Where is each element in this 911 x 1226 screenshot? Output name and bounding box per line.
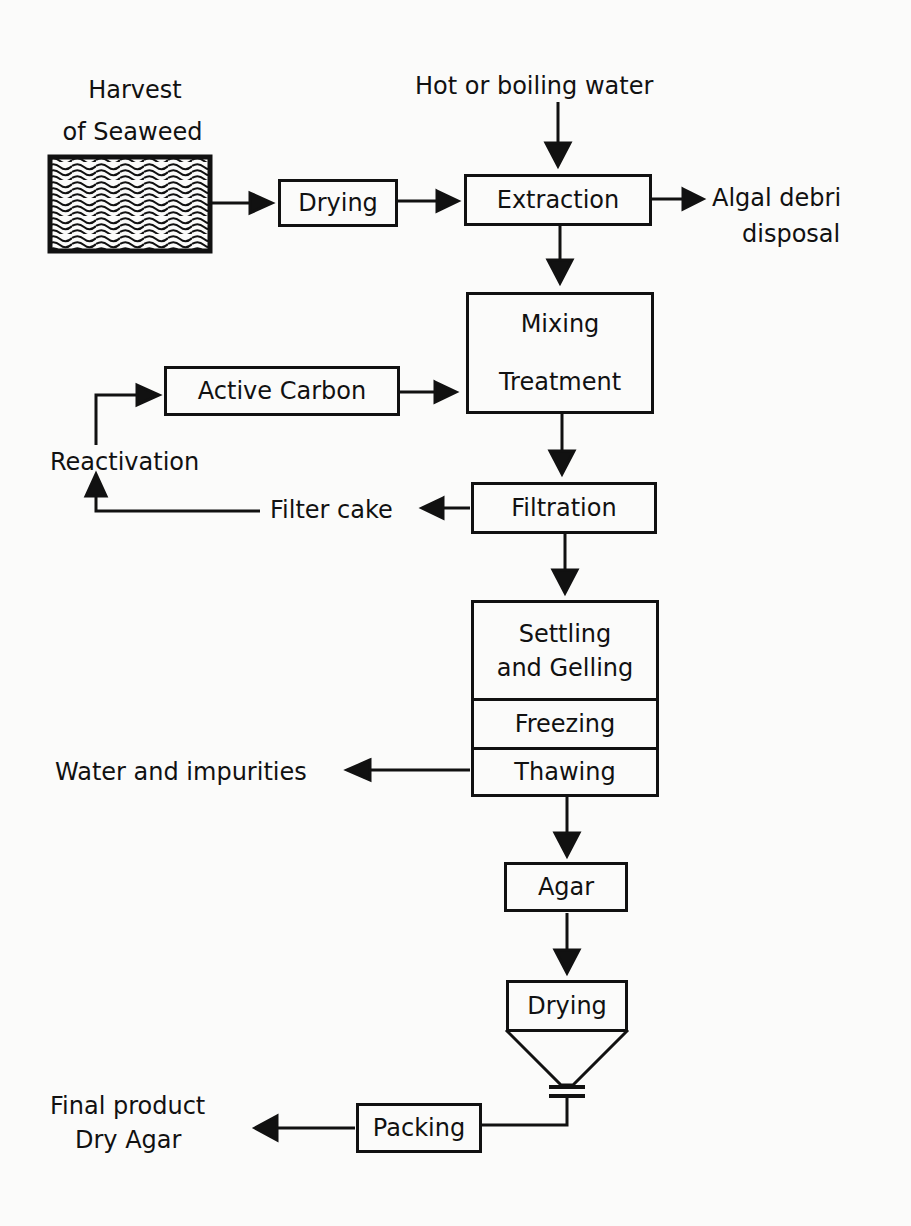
algal-disposal-label: disposal — [742, 220, 840, 248]
packing-step-box: Packing — [356, 1103, 482, 1153]
hot-water-label: Hot or boiling water — [415, 72, 653, 100]
thawing-section: Thawing — [474, 750, 656, 794]
algal-debri-label: Algal debri — [712, 184, 841, 212]
mixing-treatment-box: Mixing Treatment — [466, 292, 654, 414]
drying-step-box: Drying — [278, 179, 398, 227]
dry-agar-label: Dry Agar — [75, 1126, 181, 1154]
reactivation-label: Reactivation — [50, 448, 199, 476]
harvest-label-line2: of Seaweed — [45, 118, 220, 146]
settling-section: Settling and Gelling — [474, 603, 656, 701]
seaweed-image — [50, 157, 210, 251]
extraction-step-box: Extraction — [464, 174, 652, 226]
filter-cake-label: Filter cake — [270, 496, 393, 524]
agar-step-box: Agar — [504, 862, 628, 912]
treatment-label: Treatment — [499, 368, 621, 396]
freezing-section: Freezing — [474, 701, 656, 750]
mixing-label: Mixing — [521, 310, 600, 338]
filtration-step-box: Filtration — [471, 482, 657, 534]
harvest-label-line1: Harvest — [75, 76, 195, 104]
active-carbon-box: Active Carbon — [164, 366, 400, 416]
settling-freezing-thawing-box: Settling and Gelling Freezing Thawing — [471, 600, 659, 797]
final-product-label: Final product — [50, 1092, 205, 1120]
drying-hopper-box: Drying — [506, 980, 628, 1032]
water-impurities-label: Water and impurities — [55, 758, 307, 786]
